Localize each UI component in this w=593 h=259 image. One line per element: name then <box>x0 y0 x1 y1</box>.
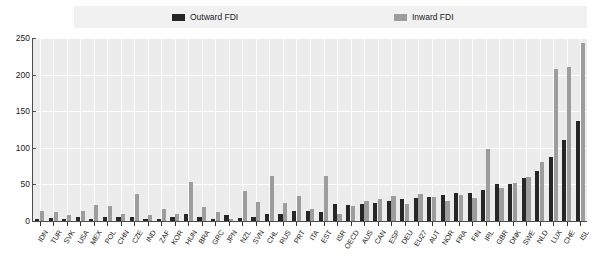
bar-group <box>454 38 463 221</box>
x-tick-mark <box>391 222 392 226</box>
bar-outward-chl <box>265 214 269 221</box>
x-tick-label-usa: USA <box>76 229 90 245</box>
x-tick-label-svk: SVK <box>63 229 77 245</box>
bar-outward-aus <box>360 204 364 221</box>
x-tick-label-che: CHE <box>562 229 576 245</box>
x-tick-label-lux: LUX <box>549 229 562 244</box>
x-tick-label-nld: NLD <box>536 229 550 245</box>
bar-inward-nor <box>445 201 449 221</box>
bar-group <box>157 38 166 221</box>
bar-outward-esp <box>387 201 391 221</box>
bar-outward-gbr <box>495 184 499 221</box>
legend-label-inward-fdi: Inward FDI <box>412 13 454 22</box>
bar-inward-gbr <box>499 188 503 221</box>
bar-group <box>508 38 517 221</box>
x-tick-label-aut: AUT <box>428 229 442 245</box>
x-tick-mark <box>553 222 554 226</box>
x-tick-mark <box>351 222 352 226</box>
x-tick-label-jpn: JPN <box>225 229 238 244</box>
bar-group <box>184 38 193 221</box>
bar-group <box>197 38 206 221</box>
x-tick-mark <box>202 222 203 226</box>
y-tick-label: 0 <box>4 217 30 226</box>
x-tick-label-swe: SWE <box>521 229 536 246</box>
bar-group <box>224 38 233 221</box>
bar-inward-irl <box>486 149 490 221</box>
x-tick-label-gbr: GBR <box>495 229 509 246</box>
bar-inward-aus <box>364 201 368 221</box>
x-tick-label-cze: CZE <box>130 229 144 245</box>
x-tick-label-esp: ESP <box>387 229 401 245</box>
x-tick-label-nor: NOR <box>440 229 454 246</box>
bar-group <box>35 38 44 221</box>
x-tick-label-ind: IND <box>145 229 158 243</box>
x-tick-mark <box>405 222 406 226</box>
bar-group <box>535 38 544 221</box>
x-tick-label-fra: FRA <box>455 229 469 245</box>
x-tick-label-nzl: NZL <box>239 229 252 244</box>
bar-outward-can <box>373 203 377 221</box>
x-tick-mark <box>445 222 446 226</box>
bar-inward-pol <box>108 206 112 221</box>
bar-inward-nzl <box>243 191 247 221</box>
bar-outward-nzl <box>238 218 242 221</box>
bar-inward-prt <box>297 196 301 221</box>
bar-inward-fin <box>472 198 476 221</box>
x-tick-mark <box>53 222 54 226</box>
bar-group <box>278 38 287 221</box>
x-tick-mark <box>459 222 460 226</box>
x-tick-mark <box>283 222 284 226</box>
x-tick-label-eu27: EU27 <box>412 229 427 248</box>
x-tick-mark <box>256 222 257 226</box>
x-tick-label-isl: ISL <box>578 229 590 242</box>
x-tick-mark <box>107 222 108 226</box>
x-tick-label-mex: MEX <box>89 229 103 246</box>
bar-outward-tur <box>49 218 53 221</box>
bar-outward-jpn <box>224 215 228 221</box>
bar-inward-isr <box>337 214 341 221</box>
bar-outward-fin <box>468 193 472 221</box>
y-tick-label: 150 <box>4 107 30 116</box>
bar-group <box>319 38 328 221</box>
x-tick-label-est: EST <box>320 229 333 244</box>
bar-group <box>103 38 112 221</box>
bar-inward-eu27 <box>418 194 422 221</box>
bar-outward-est <box>319 212 323 221</box>
y-tick-label: 200 <box>4 70 30 79</box>
x-tick-mark <box>337 222 338 226</box>
x-tick-mark <box>161 222 162 226</box>
y-tick-label: 50 <box>4 180 30 189</box>
bar-inward-can <box>378 199 382 221</box>
legend-label-outward-fdi: Outward FDI <box>190 13 238 22</box>
x-tick-label-can: CAN <box>373 229 387 245</box>
x-tick-mark <box>242 222 243 226</box>
x-tick-label-svn: SVN <box>252 229 266 245</box>
bar-outward-grc <box>211 219 215 221</box>
x-tick-label-tur: TUR <box>49 229 63 245</box>
bar-outward-irl <box>481 190 485 221</box>
bar-outward-idn <box>35 219 39 221</box>
x-tick-label-fin: FIN <box>470 229 482 242</box>
bar-inward-chl <box>270 176 274 221</box>
bar-group <box>89 38 98 221</box>
chart-legend: Outward FDI Inward FDI <box>74 6 587 28</box>
y-axis: 050100150200250 <box>0 0 30 259</box>
bar-inward-tur <box>54 212 58 221</box>
x-tick-mark <box>310 222 311 226</box>
bar-inward-esp <box>391 196 395 221</box>
x-tick-mark <box>324 222 325 226</box>
bar-inward-zaf <box>162 209 166 221</box>
bar-group <box>116 38 125 221</box>
x-tick-mark <box>148 222 149 226</box>
bar-group <box>143 38 152 221</box>
x-tick-mark <box>540 222 541 226</box>
x-tick-label-aus: AUS <box>360 229 374 245</box>
bar-outward-kor <box>170 217 174 221</box>
x-tick-mark <box>175 222 176 226</box>
bar-group <box>387 38 396 221</box>
x-tick-mark <box>229 222 230 226</box>
x-tick-mark <box>364 222 365 226</box>
x-tick-label-idn: IDN <box>37 229 50 243</box>
bar-group <box>49 38 58 221</box>
bar-outward-eu27 <box>414 198 418 221</box>
